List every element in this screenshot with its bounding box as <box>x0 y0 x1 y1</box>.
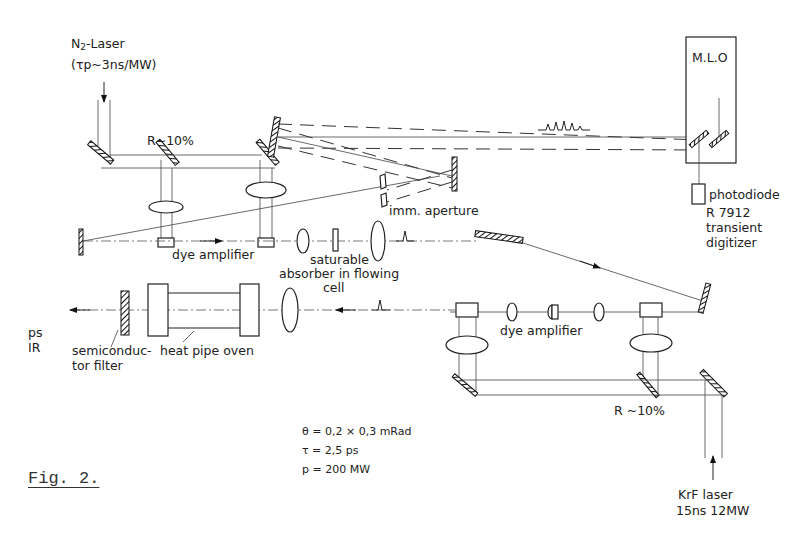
parameter-power: p = 200 MW <box>302 463 370 476</box>
krf-laser-label-1: KrF laser <box>678 487 733 502</box>
krf-laser-label-2: 15ns 12MW <box>676 503 749 518</box>
semiconductor-filter-label-1: semiconduc- <box>72 343 152 358</box>
heat-pipe-oven-label: heat pipe oven <box>160 343 254 358</box>
saturable-absorber-label-1: saturable <box>310 252 369 267</box>
mlo-beam-path <box>268 117 700 207</box>
photodiode-label: photodiode <box>709 187 780 202</box>
semiconductor-filter-label-2: tor filter <box>72 358 123 373</box>
n2-laser-spec: (τp~3ns/MW) <box>71 57 156 72</box>
parameter-pulse-duration: τ = 2,5 ps <box>302 444 359 457</box>
output-label-2: IR <box>28 340 40 355</box>
imm-aperture-label: imm. aperture <box>389 203 479 218</box>
beamsplitter-bottom-label: R ~10% <box>614 403 665 418</box>
figure-caption: Fig. 2. <box>28 469 99 488</box>
digitizer-label-1: R 7912 <box>706 205 750 220</box>
dye-amplifier-top-label: dye amplifier <box>172 247 254 262</box>
diagram-graphics <box>0 0 799 537</box>
top-pump-optics <box>88 139 286 247</box>
mlo-label: M.L.O <box>692 50 728 65</box>
beamsplitter-top-label: R~10% <box>147 133 194 148</box>
output-label-1: ps <box>28 325 42 340</box>
saturable-absorber-label-3: cell <box>323 280 345 295</box>
dye-amplifier-bottom-label: dye amplifier <box>500 323 582 338</box>
optical-setup-diagram: N2-Laser (τp~3ns/MW) R~10% M.L.O photodi… <box>0 0 799 537</box>
digitizer-label-2: transient <box>706 220 762 235</box>
n2-laser-label: N2-Laser <box>71 36 125 53</box>
output-line <box>70 284 456 347</box>
parameter-divergence: θ = 0,2 × 0,3 mRad <box>302 425 411 438</box>
saturable-absorber-label-2: absorber in flowing <box>279 266 399 281</box>
digitizer-label-3: digitizer <box>706 235 757 250</box>
amplifier-line <box>446 283 727 480</box>
